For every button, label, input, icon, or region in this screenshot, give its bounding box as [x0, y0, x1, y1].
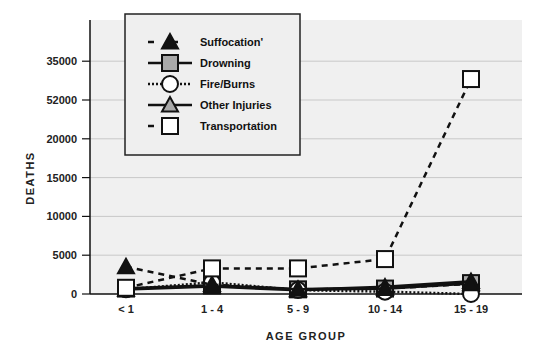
square-marker: [290, 260, 306, 276]
y-tick-label: 5000: [53, 249, 77, 261]
legend-label: Other Injuries: [200, 99, 272, 111]
circle-marker: [162, 76, 178, 92]
square-marker: [162, 55, 178, 71]
x-axis-ticks: < 11 - 45 - 910 - 1415 - 19: [118, 303, 488, 315]
y-axis-ticks: 050001000015000200005200035000: [46, 55, 90, 300]
y-tick-label: 20000: [46, 133, 77, 145]
x-tick-label: < 1: [118, 303, 134, 315]
legend-item: Transportation: [148, 118, 277, 134]
legend-label: Suffocation': [200, 36, 263, 48]
y-tick-label: 52000: [46, 94, 77, 106]
x-axis-title: AGE GROUP: [266, 330, 347, 342]
legend-item: Drowning: [148, 55, 251, 71]
y-tick-label: 10000: [46, 210, 77, 222]
y-tick-label: 15000: [46, 172, 77, 184]
square-marker: [118, 280, 134, 296]
square-marker: [204, 260, 220, 276]
x-tick-label: 5 - 9: [287, 303, 309, 315]
y-tick-label: 0: [71, 288, 77, 300]
legend-item: Fire/Burns: [148, 76, 255, 92]
legend-label: Drowning: [200, 57, 251, 69]
square-marker: [377, 251, 393, 267]
legend-label: Fire/Burns: [200, 78, 255, 90]
y-tick-label: 35000: [46, 55, 77, 67]
legend: Suffocation'DrowningFire/BurnsOther Inju…: [125, 14, 300, 155]
line-chart: 050001000015000200005200035000 < 11 - 45…: [0, 0, 541, 361]
y-axis-title: DEATHS: [24, 151, 36, 204]
x-tick-label: 10 - 14: [368, 303, 403, 315]
square-marker: [162, 118, 178, 134]
square-marker: [463, 71, 479, 87]
x-tick-label: 15 - 19: [454, 303, 488, 315]
legend-label: Transportation: [200, 120, 277, 132]
x-tick-label: 1 - 4: [201, 303, 224, 315]
